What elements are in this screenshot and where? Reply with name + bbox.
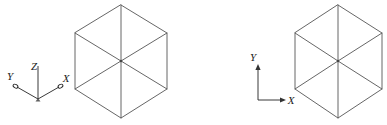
hexagon-center-node	[337, 60, 340, 63]
figure-canvas: Z X Y	[0, 0, 387, 125]
figure-root: Z X Y	[0, 0, 387, 125]
hexagon-center-node	[120, 60, 123, 63]
z-axis-label: Z	[31, 60, 38, 72]
x-axis-label: X	[62, 72, 71, 84]
figure-background	[0, 0, 387, 125]
x-axis-label: X	[287, 94, 296, 106]
